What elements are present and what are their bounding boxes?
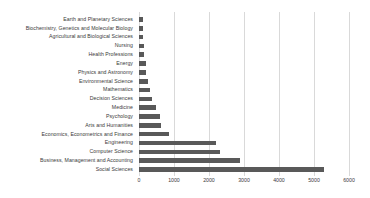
x-axis-labels: 0100020003000400050006000 bbox=[139, 178, 349, 190]
y-axis-tick-label: Medicine bbox=[0, 103, 136, 112]
bar bbox=[139, 70, 146, 75]
y-axis-tick-label: Physics and Astronomy bbox=[0, 68, 136, 77]
bar-row bbox=[139, 130, 349, 139]
bar-chart: Earth and Planetary Sciences Biochemistr… bbox=[0, 0, 370, 198]
bar bbox=[139, 26, 143, 31]
bar bbox=[139, 123, 161, 128]
bar-row bbox=[139, 112, 349, 121]
bar-row bbox=[139, 121, 349, 130]
bar bbox=[139, 52, 144, 57]
bar bbox=[139, 167, 324, 172]
plot-area bbox=[139, 12, 349, 176]
bar-row bbox=[139, 24, 349, 33]
bar-row bbox=[139, 59, 349, 68]
bar bbox=[139, 150, 220, 155]
bar-series bbox=[139, 12, 349, 176]
y-axis-tick-label: Engineering bbox=[0, 139, 136, 148]
bar bbox=[139, 17, 143, 22]
bar-row bbox=[139, 50, 349, 59]
bar bbox=[139, 132, 169, 137]
x-axis-tick-label: 2000 bbox=[203, 178, 215, 183]
bar-row bbox=[139, 156, 349, 165]
bar-row bbox=[139, 165, 349, 174]
y-axis-tick-label: Nursing bbox=[0, 41, 136, 50]
y-axis-tick-label: Economics, Econometrics and Finance bbox=[0, 130, 136, 139]
x-axis-tick-label: 6000 bbox=[343, 178, 355, 183]
y-axis-tick-label: Earth and Planetary Sciences bbox=[0, 15, 136, 24]
x-axis-tick-label: 1000 bbox=[168, 178, 180, 183]
bar bbox=[139, 105, 156, 110]
y-axis-labels: Earth and Planetary Sciences Biochemistr… bbox=[0, 12, 136, 176]
bar bbox=[139, 61, 146, 66]
y-axis-tick-label: Arts and Humanities bbox=[0, 121, 136, 130]
gridline bbox=[349, 12, 350, 176]
bar bbox=[139, 35, 143, 40]
bar-row bbox=[139, 103, 349, 112]
y-axis-tick-label: Social Sciences bbox=[0, 165, 136, 174]
y-axis-tick-label: Agricultural and Biological Sciences bbox=[0, 33, 136, 42]
bar-row bbox=[139, 147, 349, 156]
bar bbox=[139, 79, 148, 84]
bar-row bbox=[139, 94, 349, 103]
bar-row bbox=[139, 68, 349, 77]
bar bbox=[139, 97, 152, 102]
y-axis-tick-label: Energy bbox=[0, 59, 136, 68]
y-axis-tick-label: Business, Management and Accounting bbox=[0, 156, 136, 165]
y-axis-tick-label: Psychology bbox=[0, 112, 136, 121]
bar bbox=[139, 141, 216, 146]
y-axis-tick-label: Biochemistry, Genetics and Molecular Bio… bbox=[0, 24, 136, 33]
bar-row bbox=[139, 86, 349, 95]
y-axis-tick-label: Health Professions bbox=[0, 50, 136, 59]
y-axis-tick-label: Mathematics bbox=[0, 86, 136, 95]
y-axis-tick-label: Decision Sciences bbox=[0, 94, 136, 103]
bar-row bbox=[139, 33, 349, 42]
bar-row bbox=[139, 41, 349, 50]
x-axis-tick-label: 4000 bbox=[273, 178, 285, 183]
y-axis-tick-label: Computer Science bbox=[0, 147, 136, 156]
bar-row bbox=[139, 15, 349, 24]
x-axis-tick-label: 3000 bbox=[238, 178, 250, 183]
x-axis-tick-label: 0 bbox=[138, 178, 141, 183]
x-axis-tick-label: 5000 bbox=[308, 178, 320, 183]
bar bbox=[139, 114, 160, 119]
bar bbox=[139, 88, 150, 93]
bar bbox=[139, 44, 144, 49]
bar-row bbox=[139, 139, 349, 148]
y-axis-tick-label: Environmental Science bbox=[0, 77, 136, 86]
bar-row bbox=[139, 77, 349, 86]
bar bbox=[139, 158, 240, 163]
